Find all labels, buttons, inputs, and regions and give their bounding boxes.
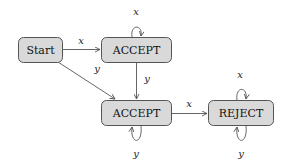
- edge-start-to-accept1: x: [63, 35, 100, 50]
- edge-accept2-to-reject: x: [172, 98, 207, 114]
- edge-label: x: [237, 69, 243, 80]
- node-start: Start: [19, 38, 63, 63]
- edge-reject-self-loop-top: x: [237, 69, 246, 101]
- edge-label: x: [133, 6, 139, 17]
- edge-label: x: [186, 98, 192, 109]
- edge-reject-self-loop-bottom: y: [237, 126, 246, 159]
- edge-accept1-to-accept2: y: [137, 62, 151, 99]
- node-label: ACCEPT: [112, 44, 161, 57]
- node-accept-bottom: ACCEPT: [102, 101, 172, 126]
- edge-label: y: [237, 148, 244, 159]
- edge-accept1-self-loop: x: [132, 6, 141, 38]
- node-label: REJECT: [219, 107, 264, 120]
- edge-label: y: [143, 73, 150, 84]
- state-diagram: x y x y y x x y Start ACCEPT ACCEPT: [0, 0, 292, 167]
- node-reject: REJECT: [209, 101, 274, 126]
- edge-label: y: [93, 63, 100, 74]
- edge-label: x: [78, 35, 84, 46]
- edge-label: y: [132, 148, 139, 159]
- node-label: Start: [26, 44, 55, 57]
- node-label: ACCEPT: [112, 107, 161, 120]
- node-accept-top: ACCEPT: [102, 38, 172, 63]
- edge-start-to-accept2: y: [58, 62, 115, 99]
- edge-accept2-self-loop: y: [132, 126, 141, 159]
